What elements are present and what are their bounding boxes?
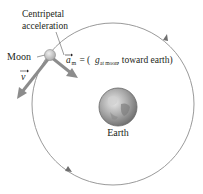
acceleration-equation: a m = ( g at moon , toward earth) bbox=[65, 54, 173, 66]
orbit-arrow-icon bbox=[65, 166, 72, 172]
svg-text:a: a bbox=[66, 55, 71, 65]
moon-leader-line bbox=[37, 55, 45, 57]
svg-text:= (: = ( bbox=[77, 55, 90, 66]
orbit-arrow-icon bbox=[163, 34, 168, 41]
svg-text:m: m bbox=[72, 60, 77, 66]
svg-text:at moon: at moon bbox=[100, 60, 118, 66]
moon-label: Moon bbox=[7, 51, 31, 62]
svg-text:v: v bbox=[21, 71, 26, 82]
moon-orbit-diagram: Earth Centripetal acceleration Moon v a … bbox=[0, 0, 203, 194]
centripetal-label-line2: acceleration bbox=[22, 21, 68, 31]
earth-icon bbox=[99, 88, 137, 126]
velocity-label: v bbox=[20, 70, 29, 83]
leader-line bbox=[56, 32, 64, 55]
svg-text:, toward earth): , toward earth) bbox=[117, 55, 173, 66]
velocity-arrow bbox=[22, 58, 49, 92]
moon-icon bbox=[45, 50, 56, 61]
centripetal-label-line1: Centripetal bbox=[22, 9, 65, 19]
earth-label: Earth bbox=[107, 127, 129, 138]
